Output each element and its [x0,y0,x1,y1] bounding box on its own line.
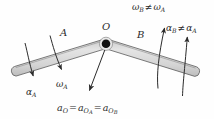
pin-joint-o [99,37,112,50]
alpha-a-subscript: A [32,91,36,98]
pin-o-label: O [102,22,110,32]
alpha-b-relation-label: αB≠αA [166,24,197,34]
omega-a-subscript: A [63,83,67,90]
bar-a-shape [11,39,109,76]
omega-b-relation-label: ωB≠ωA [132,3,165,13]
alpha-b-subscript: B [172,27,177,34]
accel-ob-subscript2: B [114,109,118,115]
accel-o-vector-arrow [90,50,105,91]
bar-a-label: A [60,28,67,38]
bar-b-label: B [137,30,144,40]
not-equal-operator-alpha: ≠ [177,23,187,33]
not-equal-operator-omega: ≠ [144,2,154,12]
omega-a-rhs-subscript: A [161,6,165,13]
alpha-a-label: αA [26,88,37,98]
mechanics-figure: A O B αA ωA ωB≠ωA αB≠αA aO=aOA=aOB [0,0,214,119]
equals-operator-2: = [93,102,103,113]
omega-a-label: ωA [56,80,68,90]
accel-equality-label: aO=aOA=aOB [57,103,117,115]
bar-b-shape [102,39,199,76]
equals-operator-1: = [68,102,78,113]
omega-a-rhs-symbol: ω [153,2,160,12]
alpha-a-rhs-subscript: A [192,27,196,34]
